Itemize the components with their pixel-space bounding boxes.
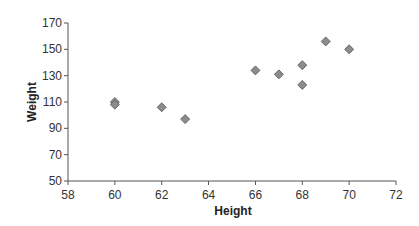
x-axis-title: Height — [214, 204, 251, 218]
x-tick-label: 66 — [249, 188, 263, 202]
diamond-marker — [274, 70, 283, 79]
x-tick-label: 70 — [342, 188, 356, 202]
scatter-chart: 507090110130150170 5860626466687072 Heig… — [0, 0, 419, 226]
diamond-marker — [157, 103, 166, 112]
y-tick-label: 130 — [42, 69, 62, 83]
x-tick-label: 60 — [108, 188, 122, 202]
y-axis: 507090110130150170 — [42, 16, 68, 188]
y-tick-label: 170 — [42, 16, 62, 30]
y-tick-label: 90 — [49, 121, 63, 135]
diamond-marker — [298, 80, 307, 89]
x-tick-label: 62 — [155, 188, 169, 202]
x-tick-label: 58 — [61, 188, 75, 202]
x-tick-label: 72 — [389, 188, 403, 202]
diamond-marker — [181, 115, 190, 124]
x-tick-label: 64 — [202, 188, 216, 202]
y-tick-label: 50 — [49, 174, 63, 188]
diamond-marker — [345, 45, 354, 54]
diamond-marker — [251, 66, 260, 75]
y-axis-title: Weight — [25, 82, 39, 122]
y-tick-label: 110 — [43, 95, 62, 109]
diamond-marker — [298, 61, 307, 70]
diamond-marker — [321, 37, 330, 46]
data-points — [110, 37, 353, 124]
x-tick-label: 68 — [296, 188, 310, 202]
y-tick-label: 70 — [49, 148, 63, 162]
y-tick-label: 150 — [42, 42, 62, 56]
x-axis: 5860626466687072 — [61, 181, 403, 202]
